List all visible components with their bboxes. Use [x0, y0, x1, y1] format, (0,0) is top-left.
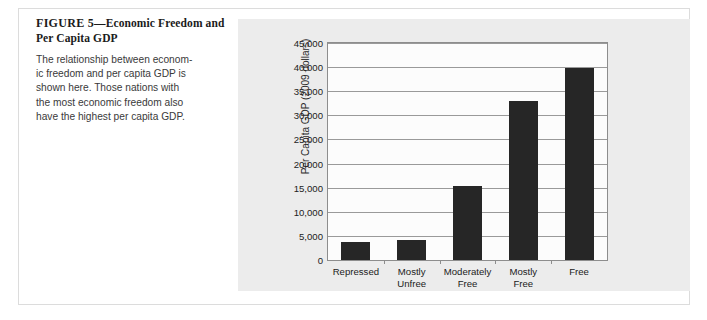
x-axis-category-label: MostlyFree [509, 266, 537, 289]
x-axis-category-line: Mostly [397, 266, 426, 278]
figure-frame: FIGURE 5—Economic Freedom and Per Capita… [18, 8, 690, 305]
x-axis-tick [440, 260, 441, 264]
figure-title-dash: — [94, 17, 106, 29]
bar [565, 68, 594, 260]
y-axis-tick-label: 5,000 [299, 230, 323, 241]
bar [509, 101, 538, 260]
figure-caption: The relationship between econom-ic freed… [36, 53, 226, 124]
figure-caption-line: shown here. Those nations with [36, 81, 226, 95]
x-axis-category-line: Free [444, 278, 491, 290]
x-axis-category-line: Free [569, 266, 589, 278]
figure-title: FIGURE 5—Economic Freedom and Per Capita… [36, 16, 226, 45]
y-axis-tick-label: 20,000 [294, 158, 323, 169]
y-axis-tick-label: 45,000 [294, 38, 323, 49]
figure-caption-line: The relationship between econom- [36, 53, 226, 67]
bar [341, 242, 370, 260]
y-axis-tick-label: 15,000 [294, 182, 323, 193]
gridline [328, 43, 607, 44]
figure-caption-line: the most economic freedom also [36, 96, 226, 110]
y-axis-tick-label: 35,000 [294, 86, 323, 97]
figure-number: FIGURE 5 [36, 16, 94, 30]
x-axis-category-label: ModeratelyFree [444, 266, 491, 289]
y-axis-tick-label: 0 [318, 255, 323, 266]
x-axis-category-label: Repressed [333, 266, 379, 278]
figure-caption-line: ic freedom and per capita GDP is [36, 67, 226, 81]
y-axis-tick-label: 40,000 [294, 62, 323, 73]
x-axis-tick [551, 260, 552, 264]
bar [453, 186, 482, 260]
y-axis-tick-label: 10,000 [294, 206, 323, 217]
chart-panel: Per Capita GDP (2009 dollars) 05,00010,0… [238, 19, 690, 291]
x-axis-category-line: Moderately [444, 266, 491, 278]
x-axis-category-label: Free [569, 266, 589, 278]
x-axis-category-line: Unfree [397, 278, 426, 290]
plot-area: 05,00010,00015,00020,00025,00030,00035,0… [327, 42, 608, 261]
x-axis-category-line: Free [509, 278, 537, 290]
x-axis-tick [384, 260, 385, 264]
x-axis-category-label: MostlyUnfree [397, 266, 426, 289]
x-axis-category-line: Repressed [333, 266, 379, 278]
figure-caption-line: have the highest per capita GDP. [36, 110, 226, 124]
x-axis-tick [495, 260, 496, 264]
y-axis-tick-label: 25,000 [294, 134, 323, 145]
caption-column: FIGURE 5—Economic Freedom and Per Capita… [36, 16, 226, 124]
y-axis-tick-label: 30,000 [294, 110, 323, 121]
x-axis-category-line: Mostly [509, 266, 537, 278]
bar [397, 240, 426, 260]
